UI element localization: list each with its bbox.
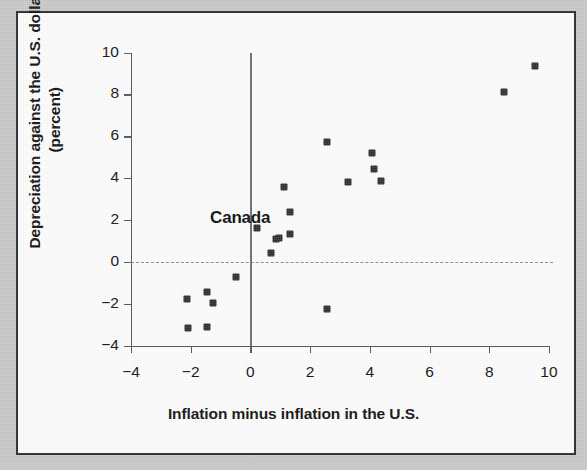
y-tick [124, 136, 132, 137]
y-tick-label: 10 [71, 43, 119, 61]
y-tick [124, 94, 132, 95]
data-point [286, 208, 293, 215]
x-tick-label: 10 [524, 363, 574, 381]
y-tick [124, 346, 132, 347]
data-point [210, 300, 217, 307]
data-point [323, 138, 330, 145]
x-tick-label: 2 [285, 363, 335, 381]
y-tick [124, 304, 132, 305]
x-tick [250, 346, 251, 353]
x-tick-label: 0 [225, 363, 275, 381]
data-point [184, 296, 191, 303]
y-tick [124, 220, 132, 221]
annotation-canada: Canada [210, 208, 270, 228]
y-tick-label: −4 [71, 336, 119, 354]
x-tick-label: 4 [345, 363, 395, 381]
x-tick [310, 346, 311, 353]
data-point [369, 150, 376, 157]
data-point [268, 249, 275, 256]
y-tick [124, 53, 132, 54]
zero-reference-line [131, 262, 553, 263]
data-point [377, 177, 384, 184]
x-tick-label: −4 [106, 363, 156, 381]
data-point [204, 323, 211, 330]
y-tick-label: 6 [71, 126, 119, 144]
x-tick [370, 346, 371, 353]
y-tick-label: 8 [71, 84, 119, 102]
data-point [532, 62, 539, 69]
x-axis-title: Inflation minus inflation in the U.S. [0, 405, 587, 423]
scatter-plot: Depreciation against the U.S. dollar (pe… [0, 0, 587, 470]
y-axis-title: Depreciation against the U.S. dollar (pe… [25, 0, 65, 285]
y-axis-title-line1: Depreciation against the U.S. dollar [26, 0, 43, 249]
data-point [345, 178, 352, 185]
y-tick-label: 4 [71, 168, 119, 186]
data-point [371, 165, 378, 172]
y-tick-label: 2 [71, 210, 119, 228]
data-point [501, 89, 508, 96]
data-point [323, 305, 330, 312]
data-point [287, 230, 294, 237]
y-tick-label: −2 [71, 294, 119, 312]
vertical-zero-line [250, 53, 251, 346]
y-tick-label: 0 [71, 252, 119, 270]
x-axis-line [131, 346, 549, 347]
x-tick [430, 346, 431, 353]
y-tick [124, 178, 132, 179]
data-point [233, 274, 240, 281]
data-point [276, 234, 283, 241]
data-point [281, 183, 288, 190]
x-tick [549, 346, 550, 353]
x-tick-label: 8 [464, 363, 514, 381]
data-point [185, 324, 192, 331]
y-axis-line [131, 53, 132, 346]
x-tick [191, 346, 192, 353]
x-tick-label: 6 [405, 363, 455, 381]
x-tick-label: −2 [166, 363, 216, 381]
data-point [204, 288, 211, 295]
x-tick [489, 346, 490, 353]
y-axis-title-line2: (percent) [45, 0, 65, 285]
